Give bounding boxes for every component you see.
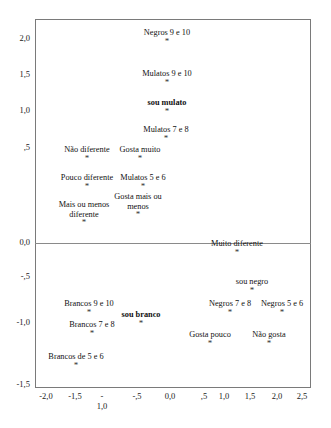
data-point: Não gosta* bbox=[245, 330, 293, 347]
x-axis-tick-1: -1,5 bbox=[62, 391, 88, 401]
y-axis-tick-1: 1,5 bbox=[0, 70, 30, 79]
data-point: Não diferente* bbox=[60, 145, 114, 162]
data-point: Mulatos 5 e 6* bbox=[111, 173, 175, 190]
data-point: Negros 5 e 6* bbox=[259, 299, 305, 316]
x-axis-tick-4: 0,0 bbox=[157, 391, 183, 401]
data-point: sou negro* bbox=[228, 277, 276, 294]
scatter-plot-page: 2,01,51,0,50,0-,5-1,0-1,5 -2,0-1,5- 1,0-… bbox=[0, 0, 331, 428]
x-axis-tick-7: 1,5 bbox=[237, 391, 263, 401]
data-point: Muito diferente* bbox=[208, 239, 266, 256]
data-point: Gosta muito* bbox=[116, 145, 164, 162]
data-point: Gosta pouco* bbox=[183, 330, 237, 347]
y-axis-tick-2: 1,0 bbox=[0, 106, 30, 115]
y-axis-tick-7: -1,5 bbox=[0, 380, 30, 389]
y-axis-tick-4: 0,0 bbox=[0, 238, 30, 247]
data-point: Gosta mais ou menos* bbox=[111, 192, 165, 218]
data-point-marker: * bbox=[199, 309, 261, 316]
data-point-marker: * bbox=[111, 211, 165, 218]
data-point: Brancos 9 e 10* bbox=[58, 299, 120, 316]
x-axis-tick-9: 2,5 bbox=[289, 391, 315, 401]
data-point-marker: * bbox=[38, 362, 114, 369]
data-point-marker: * bbox=[128, 79, 206, 86]
data-point: Brancos de 5 e 6* bbox=[38, 352, 114, 369]
data-point-marker: * bbox=[118, 320, 164, 327]
data-point: Negros 9 e 10* bbox=[128, 28, 206, 45]
data-point-marker: * bbox=[62, 330, 122, 337]
data-point-marker: * bbox=[130, 135, 202, 142]
data-point: Mulatos 9 e 10* bbox=[128, 69, 206, 86]
data-point: Pouco diferente* bbox=[60, 173, 114, 190]
y-axis-tick-3: ,5 bbox=[0, 143, 30, 152]
data-point-marker: * bbox=[111, 183, 175, 190]
data-point-marker: * bbox=[228, 287, 276, 294]
data-point-marker: * bbox=[128, 38, 206, 45]
data-point-marker: * bbox=[58, 219, 110, 226]
data-point: sou branco* bbox=[118, 310, 164, 327]
data-point-marker: * bbox=[140, 108, 194, 115]
data-point: sou mulato* bbox=[140, 98, 194, 115]
data-point-marker: * bbox=[183, 340, 237, 347]
data-point-marker: * bbox=[245, 340, 293, 347]
data-point-marker: * bbox=[259, 309, 305, 316]
data-point: Brancos 7 e 8* bbox=[62, 320, 122, 337]
data-point: Negros 7 e 8* bbox=[199, 299, 261, 316]
x-axis-tick-8: 2,0 bbox=[264, 391, 290, 401]
x-axis-tick-0: -2,0 bbox=[33, 391, 59, 401]
data-point-marker: * bbox=[60, 155, 114, 162]
data-point-marker: * bbox=[60, 183, 114, 190]
x-axis-tick-3: -,5 bbox=[124, 391, 150, 401]
x-axis-tick-2: - 1,0 bbox=[89, 391, 115, 411]
data-point: Mulatos 7 e 8* bbox=[130, 125, 202, 142]
data-point-marker: * bbox=[116, 155, 164, 162]
y-axis-tick-6: -1,0 bbox=[0, 318, 30, 327]
data-point-marker: * bbox=[208, 249, 266, 256]
data-point-marker: * bbox=[58, 309, 120, 316]
x-axis-tick-6: 1,0 bbox=[211, 391, 237, 401]
y-axis-tick-5: -,5 bbox=[0, 272, 30, 281]
data-point: Mais ou menos diferente* bbox=[58, 200, 110, 226]
zero-reference-line bbox=[35, 243, 311, 244]
y-axis-tick-0: 2,0 bbox=[0, 34, 30, 43]
